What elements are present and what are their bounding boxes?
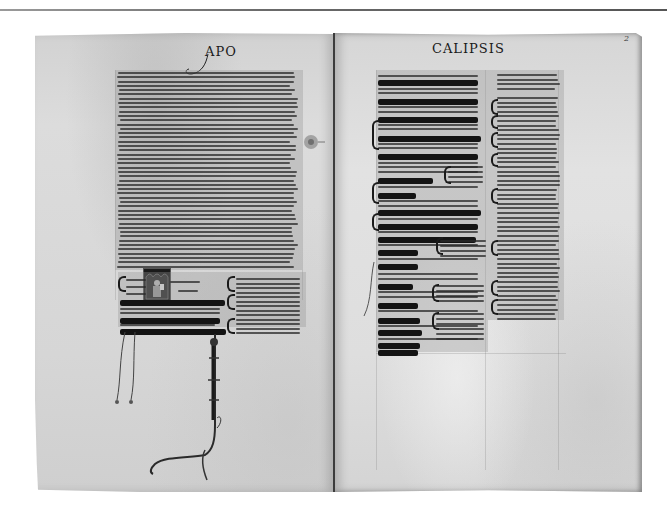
script-line bbox=[236, 296, 300, 298]
script-line bbox=[497, 272, 558, 274]
script-line bbox=[170, 281, 200, 283]
gloss-capital bbox=[444, 166, 451, 184]
script-line bbox=[497, 212, 560, 214]
script-line bbox=[236, 319, 300, 321]
script-line bbox=[119, 89, 296, 91]
script-line bbox=[120, 308, 220, 310]
script-line bbox=[378, 318, 420, 324]
script-line bbox=[126, 286, 146, 288]
script-line bbox=[497, 203, 559, 205]
script-line bbox=[378, 310, 478, 312]
script-line bbox=[436, 313, 484, 315]
script-line bbox=[236, 328, 300, 330]
script-line bbox=[378, 154, 478, 160]
script-line bbox=[117, 76, 295, 78]
script-line bbox=[436, 295, 484, 297]
script-line bbox=[118, 102, 296, 104]
script-line bbox=[119, 111, 295, 113]
script-line bbox=[120, 201, 297, 203]
folio-number: 2 bbox=[624, 34, 629, 43]
script-line bbox=[117, 154, 291, 156]
script-line bbox=[178, 290, 198, 292]
script-line bbox=[448, 171, 483, 173]
script-line bbox=[378, 258, 478, 260]
script-line bbox=[118, 253, 295, 255]
top-rule bbox=[0, 9, 667, 11]
script-line bbox=[497, 217, 559, 219]
script-line bbox=[236, 323, 300, 325]
script-line bbox=[236, 283, 300, 285]
script-line bbox=[378, 162, 478, 164]
script-line bbox=[378, 75, 478, 77]
decorative-flourish bbox=[105, 330, 235, 485]
script-line bbox=[119, 223, 298, 225]
script-line bbox=[119, 149, 296, 151]
script-line bbox=[378, 143, 478, 145]
script-line bbox=[497, 309, 558, 311]
script-line bbox=[118, 218, 296, 220]
script-line bbox=[236, 301, 300, 303]
script-line bbox=[497, 253, 559, 255]
gloss-capital bbox=[432, 284, 439, 302]
script-line bbox=[497, 198, 556, 200]
decorated-capital bbox=[227, 294, 235, 310]
script-line bbox=[126, 293, 146, 295]
script-line bbox=[497, 125, 556, 127]
script-line bbox=[497, 194, 556, 196]
script-line bbox=[497, 299, 558, 301]
script-line bbox=[497, 189, 557, 191]
script-line bbox=[497, 267, 560, 269]
script-line bbox=[497, 295, 556, 297]
script-line bbox=[236, 305, 300, 307]
script-line bbox=[118, 93, 292, 95]
spine-gutter bbox=[333, 33, 335, 492]
script-line bbox=[119, 257, 293, 259]
gloss-capital bbox=[491, 240, 498, 256]
gloss-capital bbox=[491, 188, 498, 204]
script-line bbox=[497, 161, 559, 163]
script-line bbox=[497, 79, 558, 81]
script-line bbox=[497, 171, 559, 173]
script-line bbox=[497, 276, 559, 278]
script-line bbox=[236, 278, 300, 280]
script-line bbox=[440, 255, 486, 257]
script-line bbox=[378, 330, 422, 336]
script-line bbox=[120, 235, 293, 237]
script-line bbox=[378, 273, 478, 275]
script-line bbox=[236, 292, 300, 294]
script-line bbox=[497, 290, 560, 292]
running-head-right: CALIPSIS bbox=[432, 41, 505, 56]
script-line bbox=[119, 136, 297, 138]
script-line bbox=[120, 119, 292, 121]
script-line bbox=[436, 333, 484, 335]
gloss-capital bbox=[491, 115, 498, 129]
script-line bbox=[497, 249, 559, 251]
script-line bbox=[378, 178, 433, 184]
script-line bbox=[497, 184, 560, 186]
script-line bbox=[118, 248, 295, 250]
script-line bbox=[378, 350, 418, 356]
script-line bbox=[117, 162, 290, 164]
script-line bbox=[497, 263, 557, 265]
script-line bbox=[497, 230, 558, 232]
script-line bbox=[378, 218, 478, 220]
script-line bbox=[497, 83, 560, 85]
script-line bbox=[497, 97, 558, 99]
gloss-capital bbox=[491, 99, 498, 115]
marginal-ornament bbox=[300, 130, 326, 156]
script-line bbox=[118, 167, 291, 169]
script-line bbox=[497, 221, 558, 223]
script-line bbox=[497, 111, 558, 113]
script-line bbox=[378, 210, 481, 216]
script-line bbox=[436, 323, 484, 325]
script-line bbox=[118, 214, 294, 216]
script-line bbox=[378, 343, 420, 349]
script-line bbox=[236, 314, 300, 316]
script-line bbox=[378, 99, 478, 105]
script-line bbox=[120, 231, 292, 233]
decorated-capital-G bbox=[372, 182, 379, 204]
script-line bbox=[436, 285, 484, 287]
script-line bbox=[118, 205, 294, 207]
script-line bbox=[118, 171, 296, 173]
script-line bbox=[120, 312, 220, 314]
